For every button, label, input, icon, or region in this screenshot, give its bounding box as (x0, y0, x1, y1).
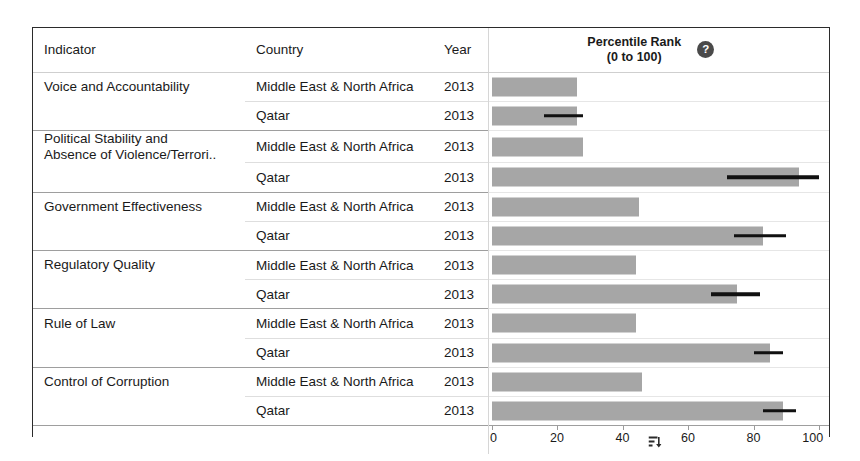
sort-bars-icon[interactable] (649, 434, 662, 446)
table-row[interactable]: Control of CorruptionMiddle East & North… (33, 367, 829, 396)
cell-indicator: Government Effectiveness (33, 192, 245, 221)
indicator-label-line2: Absence of Violence/Terrori.. (44, 147, 245, 163)
bar-track (489, 368, 830, 396)
percentile-bar[interactable] (492, 226, 764, 245)
x-axis-tick-label: 0 (490, 431, 497, 445)
confidence-interval-bar (734, 234, 786, 238)
cell-percentile-bar (488, 192, 829, 221)
cell-percentile-bar (488, 221, 829, 250)
table-row[interactable]: Government EffectivenessMiddle East & No… (33, 192, 829, 221)
x-axis-tick-label: 100 (802, 431, 823, 445)
table-row[interactable]: Rule of LawMiddle East & North Africa201… (33, 309, 829, 338)
table-header-row: Indicator Country Year Percentile Rank (… (33, 28, 829, 72)
cell-year: 2013 (435, 130, 488, 163)
percentile-bar[interactable] (492, 343, 770, 362)
table-row[interactable]: Qatar2013 (33, 221, 829, 250)
table-body: Voice and AccountabilityMiddle East & No… (33, 72, 829, 426)
axis-spacer-indicator (33, 426, 245, 454)
cell-country: Qatar (245, 280, 435, 309)
cell-indicator (33, 101, 245, 130)
cell-year: 2013 (435, 221, 488, 250)
indicator-label-line1: Control of Corruption (44, 374, 245, 390)
bar-track (489, 251, 830, 279)
percentile-bar[interactable] (492, 401, 783, 420)
cell-indicator: Control of Corruption (33, 367, 245, 396)
cell-year: 2013 (435, 72, 488, 101)
bar-track (489, 193, 830, 221)
percentile-bar[interactable] (492, 77, 577, 96)
cell-indicator: Voice and Accountability (33, 72, 245, 101)
cell-year: 2013 (435, 163, 488, 192)
indicator-label-line1: Rule of Law (44, 316, 245, 332)
bar-track (489, 309, 830, 337)
cell-country: Qatar (245, 221, 435, 250)
cell-year: 2013 (435, 192, 488, 221)
confidence-interval-bar (727, 176, 819, 180)
cell-country: Middle East & North Africa (245, 72, 435, 101)
cell-year: 2013 (435, 101, 488, 130)
axis-row: 020406080100 (33, 426, 829, 454)
governance-indicators-chart: Indicator Country Year Percentile Rank (… (32, 27, 830, 437)
cell-percentile-bar (488, 163, 829, 192)
table-row[interactable]: Qatar2013 (33, 396, 829, 425)
table-row[interactable]: Qatar2013 (33, 101, 829, 130)
bar-track (489, 73, 830, 101)
confidence-interval-bar (711, 292, 760, 296)
percentile-bar[interactable] (492, 256, 636, 275)
x-axis-ticks: 020406080100 (489, 426, 830, 454)
bar-track (489, 163, 830, 191)
confidence-interval-bar (763, 409, 796, 413)
x-axis: 020406080100 (488, 426, 829, 454)
axis-spacer-year (435, 426, 488, 454)
cell-indicator: Regulatory Quality (33, 250, 245, 279)
cell-country: Middle East & North Africa (245, 250, 435, 279)
indicator-label-line1: Government Effectiveness (44, 199, 245, 215)
bar-track (489, 102, 830, 130)
cell-indicator: Rule of Law (33, 309, 245, 338)
cell-year: 2013 (435, 396, 488, 425)
x-axis-tick-mark (557, 426, 558, 430)
x-axis-tick-mark (688, 426, 689, 430)
x-axis-tick-label: 20 (550, 431, 564, 445)
cell-percentile-bar (488, 130, 829, 163)
cell-country: Middle East & North Africa (245, 130, 435, 163)
cell-country: Middle East & North Africa (245, 309, 435, 338)
cell-percentile-bar (488, 280, 829, 309)
help-icon[interactable]: ? (697, 41, 714, 58)
table-row[interactable]: Qatar2013 (33, 338, 829, 367)
cell-indicator (33, 396, 245, 425)
percentile-bar[interactable] (492, 314, 636, 333)
x-axis-tick-label: 80 (747, 431, 761, 445)
cell-year: 2013 (435, 367, 488, 396)
cell-percentile-bar (488, 72, 829, 101)
cell-indicator (33, 163, 245, 192)
table-row[interactable]: Voice and AccountabilityMiddle East & No… (33, 72, 829, 101)
cell-country: Qatar (245, 338, 435, 367)
cell-country: Qatar (245, 101, 435, 130)
table-row[interactable]: Qatar2013 (33, 163, 829, 192)
percentile-rank-title-line1: Percentile Rank (587, 35, 681, 50)
cell-percentile-bar (488, 309, 829, 338)
percentile-bar[interactable] (492, 372, 643, 391)
table-row[interactable]: Qatar2013 (33, 280, 829, 309)
cell-percentile-bar (488, 250, 829, 279)
cell-year: 2013 (435, 250, 488, 279)
percentile-rank-title: Percentile Rank (0 to 100) (587, 35, 681, 65)
cell-percentile-bar (488, 396, 829, 425)
percentile-bar[interactable] (492, 197, 639, 216)
table-row[interactable]: Regulatory QualityMiddle East & North Af… (33, 250, 829, 279)
cell-indicator: Political Stability andAbsence of Violen… (33, 130, 245, 163)
table-row[interactable]: Political Stability andAbsence of Violen… (33, 130, 829, 163)
column-header-indicator[interactable]: Indicator (33, 28, 245, 72)
cell-year: 2013 (435, 280, 488, 309)
indicator-label-line1: Regulatory Quality (44, 257, 245, 273)
indicator-table: Indicator Country Year Percentile Rank (… (33, 28, 829, 454)
confidence-interval-bar (754, 351, 783, 355)
x-axis-tick-mark (623, 426, 624, 430)
cell-country: Middle East & North Africa (245, 192, 435, 221)
cell-country: Qatar (245, 396, 435, 425)
percentile-bar[interactable] (492, 137, 584, 156)
cell-percentile-bar (488, 367, 829, 396)
percentile-bar[interactable] (492, 285, 738, 304)
column-header-country[interactable]: Country (245, 28, 435, 72)
